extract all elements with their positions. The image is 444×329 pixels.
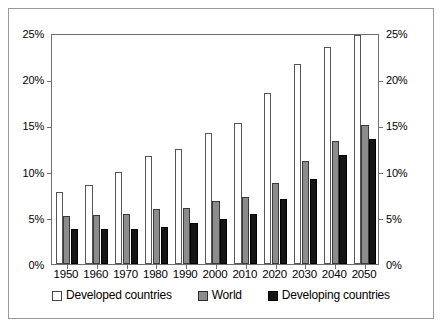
bar-world-2050 [361, 125, 368, 264]
bar-group-2030 [294, 35, 317, 264]
y-tick-label-left-0%: 0% [29, 260, 45, 271]
y-tick-left-10% [47, 173, 52, 174]
y-tick-label-right-0%: 0% [386, 260, 402, 271]
y-tick-label-right-25%: 25% [386, 29, 407, 40]
bar-group-2050 [354, 35, 377, 264]
y-tick-label-left-10%: 10% [23, 168, 44, 179]
bar-group-1990 [175, 35, 198, 264]
plot-area: 0%5%10%15%20%25% 0%5%10%15%20%25% [51, 34, 379, 265]
y-tick-label-left-5%: 5% [29, 214, 45, 225]
y-tick-right-20% [378, 81, 383, 82]
bar-developed-1970 [115, 172, 122, 264]
bar-developing-2000 [220, 219, 227, 264]
bar-world-2030 [302, 161, 309, 264]
y-tick-label-right-15%: 15% [386, 121, 407, 132]
bar-developing-2020 [280, 199, 287, 264]
bar-world-2020 [272, 183, 279, 264]
legend-swatch-developing-icon [268, 291, 278, 301]
bar-developed-1960 [85, 185, 92, 264]
bar-developing-1970 [131, 229, 138, 264]
x-axis-label-2010: 2010 [229, 267, 261, 281]
bar-developing-1960 [101, 229, 108, 264]
y-tick-label-left-20%: 20% [23, 75, 44, 86]
bar-developed-2030 [294, 64, 301, 265]
bar-group-1960 [85, 35, 108, 264]
legend-label-developed: Developed countries [66, 289, 172, 302]
bar-developing-2010 [250, 214, 257, 264]
x-axis-label-2030: 2030 [288, 267, 320, 281]
y-tick-label-right-5%: 5% [386, 214, 402, 225]
bar-developed-2040 [324, 47, 331, 264]
bar-developing-1980 [161, 227, 168, 264]
y-tick-label-left-25%: 25% [23, 29, 44, 40]
x-axis-label-1960: 1960 [80, 267, 112, 281]
bar-group-2040 [324, 35, 347, 264]
bar-developed-2010 [234, 123, 241, 264]
bar-developing-2040 [339, 155, 346, 264]
bar-group-2000 [205, 35, 228, 264]
x-axis-label-1970: 1970 [110, 267, 142, 281]
y-tick-label-right-20%: 20% [386, 75, 407, 86]
bar-world-1990 [183, 208, 190, 264]
legend-item-developing: Developing countries [268, 289, 390, 302]
bar-world-1970 [123, 214, 130, 264]
x-axis-label-2020: 2020 [259, 267, 291, 281]
bar-group-2010 [234, 35, 257, 264]
x-axis-label-2050: 2050 [348, 267, 380, 281]
x-axis-label-2040: 2040 [318, 267, 350, 281]
x-axis-label-1950: 1950 [50, 267, 82, 281]
bar-developing-2050 [369, 139, 376, 264]
legend-swatch-world-icon [198, 291, 208, 301]
bar-group-1970 [115, 35, 138, 264]
x-axis-label-1980: 1980 [139, 267, 171, 281]
y-tick-label-left-15%: 15% [23, 121, 44, 132]
x-axis-label-1990: 1990 [169, 267, 201, 281]
legend-label-developing: Developing countries [282, 289, 390, 302]
bar-developed-2020 [264, 93, 271, 264]
legend-label-world: World [212, 289, 242, 302]
y-tick-left-20% [47, 81, 52, 82]
y-tick-right-5% [378, 219, 383, 220]
bar-world-1960 [93, 215, 100, 264]
legend-item-developed: Developed countries [52, 289, 172, 302]
bar-developed-2000 [205, 133, 212, 264]
bar-developed-1980 [145, 156, 152, 264]
bar-world-1980 [153, 209, 160, 264]
y-tick-right-15% [378, 127, 383, 128]
bar-group-1980 [145, 35, 168, 264]
y-tick-right-10% [378, 173, 383, 174]
x-axis-labels: 1950196019701980199020002010202020302040… [51, 267, 379, 283]
bar-developing-1950 [71, 229, 78, 264]
bar-developed-1990 [175, 149, 182, 264]
y-tick-left-15% [47, 127, 52, 128]
chart-legend: Developed countriesWorldDeveloping count… [9, 289, 433, 302]
bar-developing-2030 [310, 179, 317, 264]
y-tick-left-5% [47, 219, 52, 220]
bar-group-1950 [56, 35, 79, 264]
bar-world-2000 [212, 201, 219, 264]
bar-group-2020 [264, 35, 287, 264]
bar-world-2010 [242, 197, 249, 264]
legend-item-world: World [198, 289, 242, 302]
bar-developed-1950 [56, 192, 63, 264]
bar-developed-2050 [354, 35, 361, 264]
chart-figure: 0%5%10%15%20%25% 0%5%10%15%20%25% 195019… [8, 8, 434, 319]
bar-developing-1990 [190, 223, 197, 264]
bar-world-1950 [63, 216, 70, 264]
legend-swatch-developed-icon [52, 291, 62, 301]
x-axis-label-2000: 2000 [199, 267, 231, 281]
y-tick-label-right-10%: 10% [386, 168, 407, 179]
bar-world-2040 [332, 141, 339, 264]
